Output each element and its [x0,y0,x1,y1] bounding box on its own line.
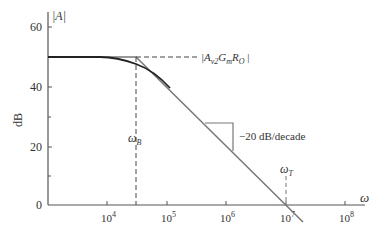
svg-text:104: 104 [101,210,116,224]
svg-text:106: 106 [220,210,235,224]
x-tick-labels: 104 105 106 107 108 [101,210,354,224]
slope-triangle [205,123,233,151]
x-axis-label: ω [360,190,369,205]
y-tick-label: 60 [30,20,42,34]
slope-label: −20 dB/decade [239,130,305,142]
bode-plot: 60 40 20 0 dB |A| 104 105 106 107 108 ω … [0,0,386,234]
y-tick-label: 40 [30,80,42,94]
svg-text:108: 108 [339,210,354,224]
y-axis-title: |A| [52,9,66,23]
omega-t-label: ωT [280,162,293,178]
svg-text:105: 105 [161,210,176,224]
y-tick-label: 0 [36,198,42,212]
y-tick-label: 20 [30,140,42,154]
y-axis-label: dB [11,113,25,127]
gain-annotation: |Av2GmRO | [201,51,250,66]
omega-b-label: ωB [128,131,141,147]
actual-response-curve [48,57,170,88]
